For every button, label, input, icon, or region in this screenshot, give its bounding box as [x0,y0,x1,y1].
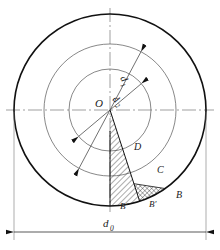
point-label-B-prime: B′ [149,199,157,209]
d0-label-group: d 0 [103,217,114,233]
point-label-O: O [95,97,103,109]
d0-label: d [103,217,109,229]
point-label-C: C [157,164,164,175]
diagram-root: O d 1 d 2 d 0 D C B B′ B″ [0,0,220,250]
d1-label-group: d 1 [116,74,133,89]
d0-label-subscript: 0 [110,224,114,233]
technical-drawing-canvas: O d 1 d 2 d 0 D C B B′ B″ [0,0,220,250]
d1-label-subscript: 1 [118,82,127,89]
point-label-B: B [176,189,182,200]
point-label-D: D [133,141,142,152]
point-label-B-dprime: B″ [120,201,129,211]
